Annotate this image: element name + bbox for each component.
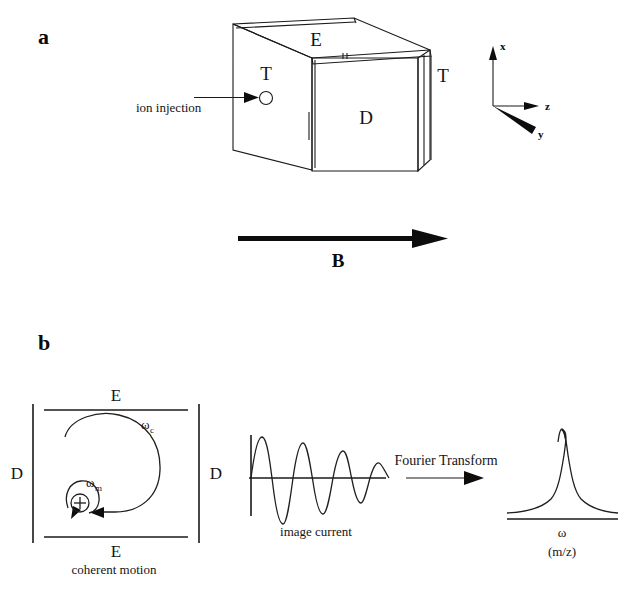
magnetron-frequency-label: ω [86,475,95,490]
excite-top-plate [233,18,431,64]
label-detect-front: D [359,107,373,128]
axis-label-y: y [538,128,544,140]
ion-entrance-hole [260,92,273,105]
panel-b-label: b [38,330,50,355]
panel-a-label: a [38,24,49,49]
ion-charge-marker [71,494,89,512]
label-detect-left-b: D [11,464,23,483]
label-excite-top: E [310,29,322,50]
axis-label-z: z [545,100,550,112]
fourier-transform-arrow [406,471,484,485]
panel-a: a [38,18,550,271]
back-trap-plate [418,50,430,171]
figure-root: a [0,0,641,616]
ion-injection-arrow [194,92,259,103]
magnetron-frequency-sub: m [95,483,102,493]
cyclotron-frequency-sub: c [150,425,154,435]
image-current-plot [249,435,389,524]
fourier-transform-label: Fourier Transform [394,453,497,468]
label-excite-bottom-b: E [111,542,121,561]
coordinate-axes [489,46,539,134]
figure-canvas: a [0,0,641,616]
coherent-motion-caption: coherent motion [72,562,157,577]
panel-b: b E E D D ω c ω [11,330,618,577]
label-detect-right-b: D [210,464,222,483]
ion-injection-label: ion injection [136,100,202,115]
spectrum-axis-sublabel: (m/z) [548,544,576,559]
image-current-caption: image current [280,524,352,539]
axis-label-x: x [500,40,506,52]
cyclotron-frequency-label: ω [141,417,150,432]
magnetic-field-label: B [332,250,345,271]
spectrum-plot [507,429,618,519]
label-trap-front: T [260,63,272,84]
magnetic-field-arrow [238,229,448,248]
label-trap-back: T [437,65,449,86]
label-excite-top-b: E [111,386,121,405]
spectrum-axis-label: ω [558,525,567,540]
cell-cross-section [33,404,199,543]
